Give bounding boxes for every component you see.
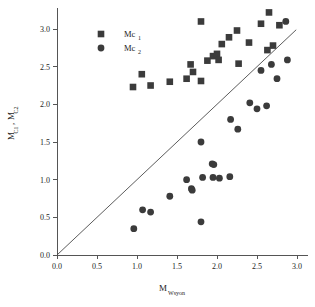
x-axis-title-sub: Wsyon (168, 290, 185, 296)
data-point-square (258, 20, 265, 27)
data-point-square (276, 22, 283, 29)
data-point-square (226, 34, 233, 41)
data-point-circle (216, 175, 223, 182)
data-point-circle (189, 187, 196, 194)
x-axis-title: MWsyon (159, 283, 185, 296)
data-point-circle (183, 176, 190, 183)
data-point-circle (254, 105, 261, 112)
data-point-square (219, 41, 226, 48)
data-point-circle (139, 206, 146, 213)
y-axis-title: MC1,MC2 (6, 106, 19, 140)
data-point-square (214, 51, 221, 58)
legend-marker-circle (98, 45, 105, 52)
x-tick-group: 0.00.51.01.52.02.53.0 (52, 255, 302, 271)
x-tick-label: 2.5 (252, 262, 262, 271)
y-axis-title-sub-1: C1 (13, 126, 19, 133)
x-tick-label: 1.5 (172, 262, 182, 271)
x-tick-label: 2.0 (212, 262, 222, 271)
data-point-square (266, 9, 273, 16)
legend: Mc1Mc2 (98, 29, 141, 55)
y-tick-label: 0.5 (40, 213, 50, 222)
data-point-circle (199, 174, 206, 181)
data-point-square (130, 84, 137, 91)
data-point-circle (226, 173, 233, 180)
data-point-circle (130, 225, 137, 232)
data-point-circle (258, 67, 265, 74)
x-tick-label: 1.0 (132, 262, 142, 271)
legend-label-mc2: Mc (124, 43, 136, 53)
data-point-circle (282, 18, 289, 25)
data-point-circle (234, 126, 241, 133)
data-point-square (235, 60, 242, 67)
data-point-square (190, 69, 197, 76)
scatter-plot-figure: 0.00.51.01.52.02.53.00.00.51.01.52.02.53… (0, 0, 315, 307)
data-point-circle (198, 218, 205, 225)
x-axis-title-main: M (159, 283, 167, 293)
one-to-one-reference-line (57, 30, 296, 255)
data-point-circle (198, 139, 205, 146)
data-point-circle (268, 61, 275, 68)
data-point-square (183, 75, 190, 82)
data-point-circle (227, 116, 234, 123)
data-point-square (167, 78, 174, 85)
x-tick-label: 0.5 (92, 262, 102, 271)
y-tick-label: 3.0 (40, 25, 50, 34)
data-point-square (187, 61, 194, 68)
y-tick-label: 1.0 (40, 176, 50, 185)
data-point-square (198, 78, 205, 85)
data-point-square (234, 27, 241, 34)
y-axis-title-comma: , (6, 123, 16, 125)
legend-marker-square (98, 31, 105, 38)
data-point-square (270, 42, 277, 49)
data-point-circle (147, 209, 154, 216)
data-point-circle (210, 161, 217, 168)
y-tick-label: 1.5 (40, 138, 50, 147)
legend-sub-mc2: 2 (138, 49, 141, 55)
series-mc1 (130, 9, 283, 90)
y-tick-label: 2.5 (40, 63, 50, 72)
data-point-circle (246, 99, 253, 106)
x-tick-label: 0.0 (52, 262, 62, 271)
data-point-circle (166, 193, 173, 200)
data-point-circle (263, 102, 270, 109)
y-axis-title-sub-2: C2 (13, 106, 19, 113)
x-tick-label: 3.0 (292, 262, 302, 271)
data-point-circle (210, 174, 217, 181)
y-tick-group: 0.00.51.01.52.02.53.0 (40, 25, 57, 260)
y-tick-label: 2.0 (40, 100, 50, 109)
data-point-square (139, 71, 146, 78)
data-point-circle (284, 56, 291, 63)
data-point-circle (274, 75, 281, 82)
plot-canvas: 0.00.51.01.52.02.53.00.00.51.01.52.02.53… (0, 0, 315, 307)
data-point-square (246, 39, 253, 46)
data-point-square (147, 82, 154, 89)
data-point-square (215, 57, 222, 64)
legend-label-mc1: Mc (124, 29, 136, 39)
legend-sub-mc1: 1 (138, 35, 141, 41)
y-tick-label: 0.0 (40, 251, 50, 260)
data-point-square (198, 18, 205, 25)
